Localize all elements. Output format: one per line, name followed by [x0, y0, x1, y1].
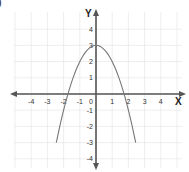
- axes: [10, 9, 186, 170]
- y-axis-down-arrow-icon: [93, 163, 99, 170]
- x-tick-label: -3: [44, 98, 50, 105]
- x-tick-label: 3: [143, 98, 147, 105]
- x-tick-label: 0: [89, 98, 93, 105]
- y-tick-label: 1: [89, 74, 93, 81]
- x-tick-label: -1: [77, 98, 83, 105]
- parabola-chart: -4-3-2-1012344321-1-2-3-4 X Y: [0, 0, 189, 172]
- x-tick-label: -4: [28, 98, 34, 105]
- y-tick-label: -1: [87, 107, 93, 114]
- y-axis-label: Y: [85, 8, 92, 19]
- x-tick-label: 1: [110, 98, 114, 105]
- grid: [14, 12, 182, 168]
- y-tick-label: 2: [89, 58, 93, 65]
- x-tick-label: 4: [159, 98, 163, 105]
- y-axis-up-arrow-icon: [93, 9, 99, 16]
- y-tick-label: 4: [89, 26, 93, 33]
- x-axis-left-arrow-icon: [10, 91, 17, 97]
- y-tick-label: -2: [87, 123, 93, 130]
- y-tick-label: -3: [87, 139, 93, 146]
- y-tick-label: -4: [87, 155, 93, 162]
- x-axis-label: X: [175, 96, 182, 107]
